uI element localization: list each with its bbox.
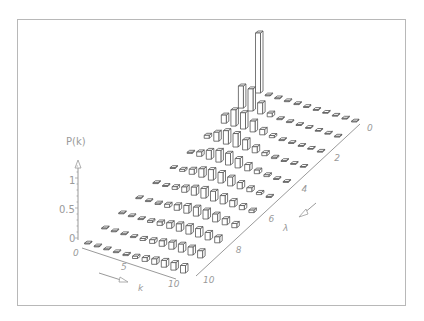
bar xyxy=(256,31,264,93)
bar xyxy=(237,181,245,189)
bar xyxy=(315,129,323,132)
bar xyxy=(184,204,192,214)
bar xyxy=(203,208,211,219)
bar xyxy=(170,166,178,169)
bar xyxy=(161,258,169,267)
bar xyxy=(152,257,160,264)
k-axis-arrow-icon xyxy=(119,277,128,282)
k-axis-label: k xyxy=(138,283,144,293)
bar xyxy=(243,138,251,150)
bar xyxy=(157,220,165,225)
bar xyxy=(342,116,350,119)
z-tick-1: 1 xyxy=(69,175,75,186)
bar xyxy=(250,119,258,132)
bar xyxy=(294,102,302,105)
bar xyxy=(171,261,179,271)
bar xyxy=(264,173,272,177)
bar xyxy=(241,111,249,129)
bar xyxy=(163,184,171,187)
bar xyxy=(275,96,283,99)
bar xyxy=(123,252,130,255)
bar xyxy=(204,133,212,138)
k-tick-5: 5 xyxy=(121,262,127,272)
bar xyxy=(265,93,273,96)
bar xyxy=(193,205,201,216)
bar xyxy=(155,201,163,204)
bar xyxy=(281,159,289,162)
bar xyxy=(262,151,270,156)
bar xyxy=(323,111,331,114)
bar xyxy=(233,132,241,147)
bar xyxy=(258,101,266,114)
bar xyxy=(138,217,146,220)
bar xyxy=(238,84,246,108)
bar xyxy=(148,219,156,223)
lambda-tick-4: 4 xyxy=(301,184,307,194)
bar xyxy=(254,168,261,174)
bar xyxy=(260,127,268,134)
bar xyxy=(130,235,138,238)
k-tick-0: 0 xyxy=(73,248,79,258)
bar xyxy=(235,157,243,168)
bar xyxy=(277,117,285,120)
bar xyxy=(298,144,306,147)
bar xyxy=(266,194,274,197)
bar xyxy=(220,194,228,204)
bar xyxy=(150,238,158,244)
bar xyxy=(352,119,360,122)
bar xyxy=(94,244,102,247)
bar xyxy=(198,249,206,258)
bar xyxy=(213,212,221,222)
bar xyxy=(128,214,136,217)
bar xyxy=(188,245,196,255)
bar xyxy=(226,151,234,165)
bar xyxy=(228,175,236,186)
bar xyxy=(216,148,224,162)
bar xyxy=(197,150,205,156)
bar xyxy=(181,264,189,274)
bar xyxy=(180,167,188,171)
bar xyxy=(201,186,209,198)
bar xyxy=(111,229,119,232)
bar xyxy=(119,211,127,214)
bar xyxy=(296,123,304,126)
bars xyxy=(85,31,360,273)
bar xyxy=(102,226,110,229)
z-axis-arrow-icon xyxy=(75,160,81,168)
bar xyxy=(196,227,204,237)
bar xyxy=(291,162,299,165)
bar xyxy=(247,186,255,192)
z-axis: P(k) 1 0.5 0 xyxy=(59,136,86,244)
bar xyxy=(165,202,173,207)
bar xyxy=(145,199,153,202)
bar xyxy=(231,108,239,126)
bar xyxy=(274,177,282,180)
bar xyxy=(221,113,229,123)
lambda-tick-2: 2 xyxy=(334,153,340,163)
lambda-tick-6: 6 xyxy=(269,214,275,224)
bar xyxy=(313,108,321,111)
bar xyxy=(153,181,161,184)
bar xyxy=(215,235,223,243)
bar xyxy=(174,203,182,210)
lambda-tick-8: 8 xyxy=(236,245,242,255)
z-tick-0: 0 xyxy=(69,233,75,244)
z-tick-0.5: 0.5 xyxy=(59,204,75,215)
poisson-3d-bar-chart: P(k) 1 0.5 0 0 5 10 k 0246810 λ xyxy=(0,0,424,321)
bar xyxy=(136,196,144,199)
bar xyxy=(222,217,230,225)
bar xyxy=(189,167,197,174)
bar xyxy=(284,99,292,102)
bar xyxy=(211,189,219,201)
bar xyxy=(85,241,93,244)
bar xyxy=(182,185,190,192)
bar xyxy=(167,221,175,229)
bar xyxy=(199,167,207,177)
bar xyxy=(121,232,129,235)
bar xyxy=(214,130,222,141)
bar xyxy=(267,111,275,117)
bar xyxy=(230,199,238,207)
bar xyxy=(239,204,247,210)
bar xyxy=(186,224,194,234)
bar xyxy=(169,240,177,249)
